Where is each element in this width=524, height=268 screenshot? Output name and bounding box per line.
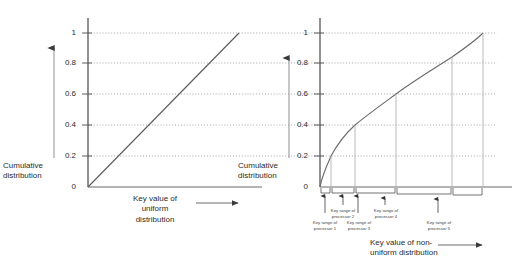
right-ytick-0.8: 0.8: [276, 58, 308, 67]
key-range-label-processor-1: Key range of processor 1: [306, 220, 344, 231]
left-chart-ylabel: Cumulative distribution: [3, 161, 65, 181]
right-chart-xlabel: Key value of non- uniform distribution: [370, 238, 444, 259]
left-chart-xlabel: Key value of uniform distribution: [119, 194, 191, 225]
key-range-label-processor-4: Key range of processor 4: [366, 208, 406, 219]
right-ytick-0: 0: [276, 182, 308, 191]
left-chart-axes: [88, 18, 262, 187]
non-uniform-distribution-curve: [320, 33, 483, 187]
right-chart-tickmarks: [314, 33, 324, 156]
right-ytick-0.4: 0.4: [276, 120, 308, 129]
right-chart-ylabel: Cumulative distribution: [238, 161, 300, 181]
right-ytick-1: 1: [276, 28, 308, 37]
range-drop-lines: [331, 33, 483, 187]
left-ytick-1: 1: [44, 28, 76, 37]
key-range-label-processor-5: Key range of processor 5: [419, 220, 459, 231]
left-ytick-0: 0: [44, 182, 76, 191]
uniform-distribution-line: [88, 33, 239, 187]
key-range-label-processor-2: Key range of processor 2: [324, 208, 362, 219]
figure-two-cumulative-distributions: 1 0.8 0.6 0.4 0.2 0 Cumulative distribut…: [0, 0, 524, 268]
left-ytick-0.6: 0.6: [44, 89, 76, 98]
key-range-brackets: [321, 188, 482, 195]
left-ytick-0.8: 0.8: [44, 58, 76, 67]
left-chart-tickmarks: [82, 33, 92, 156]
right-ytick-0.2: 0.2: [276, 151, 308, 160]
right-ytick-0.6: 0.6: [276, 89, 308, 98]
left-ytick-0.4: 0.4: [44, 120, 76, 129]
key-range-label-processor-3: Key range of processor 3: [340, 220, 378, 231]
left-ytick-0.2: 0.2: [44, 151, 76, 160]
